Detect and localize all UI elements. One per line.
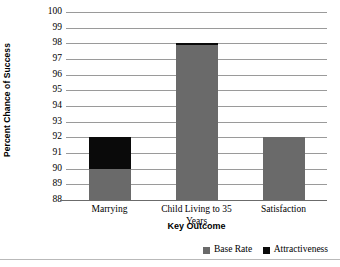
x-tick-label: Satisfaction xyxy=(240,203,327,215)
y-tick-label: 89 xyxy=(40,179,62,189)
x-axis-tick-labels: MarryingChild Living to 35 YearsSatisfac… xyxy=(66,203,327,219)
chart-legend: Base RateAttractiveness xyxy=(0,243,340,257)
y-tick-label: 94 xyxy=(40,101,62,111)
legend-label: Attractiveness xyxy=(274,245,328,255)
x-tick-label: Marrying xyxy=(66,203,153,215)
y-tick-label: 92 xyxy=(40,132,62,142)
y-tick-label: 99 xyxy=(40,23,62,33)
y-tick-label: 88 xyxy=(40,195,62,205)
bar-segment-attractiveness[interactable] xyxy=(89,137,131,168)
bar-stack[interactable] xyxy=(89,137,131,200)
bar-stack[interactable] xyxy=(263,137,305,200)
legend-item[interactable]: Base Rate xyxy=(203,245,252,255)
bar-segment-base-rate[interactable] xyxy=(263,137,305,200)
bar-group xyxy=(66,12,153,200)
x-axis-line xyxy=(60,200,327,201)
y-axis-title-label: Percent Chance of Success xyxy=(2,43,12,157)
y-axis-tick-labels: 100999897969594939291908988 xyxy=(36,12,62,200)
chart-container: Percent Chance of Success 10099989796959… xyxy=(0,0,340,267)
y-tick-label: 100 xyxy=(40,7,62,17)
legend-swatch-icon xyxy=(263,247,270,254)
y-tick-label: 98 xyxy=(40,38,62,48)
y-tick-label: 91 xyxy=(40,148,62,158)
y-tick-label: 90 xyxy=(40,164,62,174)
legend-label: Base Rate xyxy=(214,245,252,255)
bar-group xyxy=(153,12,240,200)
y-tick-label: 95 xyxy=(40,85,62,95)
bar-group xyxy=(240,12,327,200)
legend-swatch-icon xyxy=(203,247,210,254)
legend-divider xyxy=(0,259,340,260)
y-tick-label: 96 xyxy=(40,70,62,80)
y-axis-title: Percent Chance of Success xyxy=(0,0,14,200)
bar-segment-base-rate[interactable] xyxy=(89,169,131,200)
bar-segment-base-rate[interactable] xyxy=(176,45,218,200)
x-axis-title: Key Outcome xyxy=(66,221,327,231)
bar-stack[interactable] xyxy=(176,43,218,200)
y-tick-label: 93 xyxy=(40,117,62,127)
legend-item[interactable]: Attractiveness xyxy=(263,245,328,255)
y-tick-label: 97 xyxy=(40,54,62,64)
plot-area xyxy=(66,12,327,200)
